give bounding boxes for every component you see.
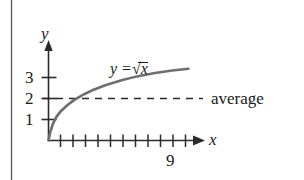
y-tick-label-1: 1 — [25, 111, 34, 128]
x-axis-label: x — [209, 131, 217, 148]
x-axis — [49, 136, 206, 146]
radical-overbar — [138, 62, 147, 63]
radicand: x — [141, 60, 148, 77]
average-label: average — [211, 90, 264, 107]
y-tick-label-3: 3 — [25, 69, 34, 86]
curve-equation-label: y =√x — [110, 61, 148, 77]
sqrt-curve — [49, 69, 189, 141]
x-tick-label-9: 9 — [166, 152, 175, 169]
radical-icon: √x — [132, 61, 148, 77]
math-figure-sqrt-average: y x 3 2 1 9 y =√x average — [0, 0, 304, 180]
y-axis-label: y — [41, 25, 49, 42]
y-tick-label-2: 2 — [25, 90, 34, 107]
equation-lhs: y = — [110, 60, 132, 77]
